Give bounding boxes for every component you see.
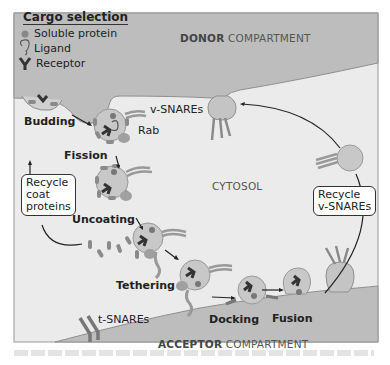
- donor-bold: DONOR: [180, 32, 224, 44]
- recycle-v-snares-box: Recycle v-SNAREs: [313, 186, 376, 216]
- t-snares-label: t-SNAREs: [98, 314, 149, 326]
- legend-title: Cargo selection: [23, 11, 128, 25]
- acceptor-compartment-label: ACCEPTOR COMPARTMENT: [158, 338, 308, 350]
- acceptor-rest: COMPARTMENT: [222, 338, 308, 350]
- donor-rest: COMPARTMENT: [224, 32, 310, 44]
- blurred-caption: [14, 350, 374, 356]
- legend-ligand: Ligand: [34, 43, 71, 55]
- step-fission: Fission: [64, 150, 108, 162]
- soluble-protein-icon: [22, 31, 29, 38]
- cytosol-label: CYTOSOL: [212, 180, 262, 192]
- acceptor-bold: ACCEPTOR: [158, 338, 222, 350]
- step-budding: Budding: [24, 116, 75, 128]
- recycle-coat-proteins-box: Recycle coat proteins: [21, 174, 76, 216]
- v-snares-label: v-SNAREs: [150, 104, 203, 116]
- legend-soluble-protein: Soluble protein: [34, 28, 117, 40]
- step-tethering: Tethering: [116, 280, 175, 292]
- donor-compartment-label: DONOR COMPARTMENT: [180, 32, 311, 44]
- recycle-coat-line-3: proteins: [26, 201, 71, 213]
- step-docking: Docking: [209, 314, 259, 326]
- legend-receptor: Receptor: [36, 58, 85, 70]
- fusion-vesicle-icon: [283, 268, 310, 295]
- step-fusion: Fusion: [272, 313, 313, 325]
- recycle-vsnares-line-2: v-SNAREs: [318, 201, 371, 213]
- vesicle-trafficking-diagram: Cargo selection Soluble protein Ligand R…: [0, 0, 390, 365]
- rab-label: Rab: [138, 125, 159, 137]
- step-uncoating: Uncoating: [72, 214, 135, 226]
- donor-bud-vesicle: [208, 96, 236, 120]
